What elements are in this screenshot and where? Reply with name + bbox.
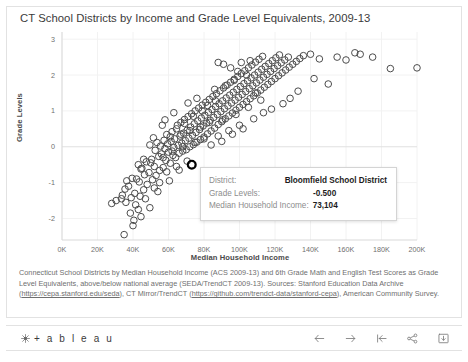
share-icon[interactable] xyxy=(406,332,419,345)
caption-link-seda[interactable]: https://cepa.stanford.edu/seda xyxy=(21,289,119,298)
back-arrow-icon[interactable] xyxy=(313,332,326,345)
toolbar-actions xyxy=(313,332,450,345)
tableau-wordmark: + a b l e a u xyxy=(34,333,114,344)
tooltip-value-grade: -0.500 xyxy=(313,188,336,201)
tooltip-value-district: Bloomfield School District xyxy=(285,175,387,188)
caption-link-trendct[interactable]: https://github.com/trendct-data/stanford… xyxy=(192,289,337,298)
y-axis-title: Grade Levels xyxy=(15,78,24,158)
caption-part-3: ), American Community Survey. xyxy=(337,289,439,298)
chart-caption: Connecticut School Districts by Median H… xyxy=(19,268,449,300)
footer-strip xyxy=(6,352,462,361)
tooltip-label-district: District: xyxy=(209,175,285,188)
x-axis-title: Median Household Income xyxy=(62,253,418,262)
tooltip-row-district: District: Bloomfield School District xyxy=(209,175,387,188)
tooltip-label-income: Median Household Income: xyxy=(209,200,313,213)
tableau-logo[interactable]: + a b l e a u xyxy=(20,333,114,344)
forward-arrow-icon[interactable] xyxy=(344,332,357,345)
page-title: CT School Districts by Income and Grade … xyxy=(20,12,370,24)
caption-part-2: ), CT Mirror/TrendCT ( xyxy=(120,289,192,298)
tableau-toolbar: + a b l e a u xyxy=(6,325,462,351)
revert-icon[interactable] xyxy=(375,332,388,345)
tooltip-label-grade: Grade Levels: xyxy=(209,188,313,201)
tooltip-value-income: 73,104 xyxy=(313,200,338,213)
tooltip-row-grade: Grade Levels: -0.500 xyxy=(209,188,387,201)
tableau-flower-icon xyxy=(20,333,31,344)
download-icon[interactable] xyxy=(437,332,450,345)
mark-tooltip: District: Bloomfield School District Gra… xyxy=(200,167,397,221)
tooltip-row-income: Median Household Income: 73,104 xyxy=(209,200,387,213)
tableau-viz-container: CT School Districts by Income and Grade … xyxy=(0,0,468,362)
